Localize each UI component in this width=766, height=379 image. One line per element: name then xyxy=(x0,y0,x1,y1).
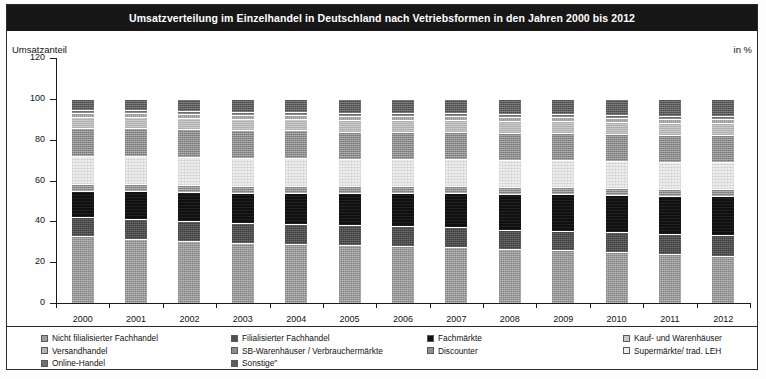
bar-segment xyxy=(339,117,361,120)
bar-segment xyxy=(392,121,414,131)
bar-segment xyxy=(178,158,200,185)
bar-segment xyxy=(552,115,574,117)
bar-segment xyxy=(552,134,574,161)
legend-item[interactable]: Discounter xyxy=(427,346,623,356)
bar-segment xyxy=(712,136,734,163)
legend-item[interactable]: Kauf- und Warenhäuser xyxy=(623,333,753,343)
legend-item[interactable]: SB-Warenhäuser / Verbrauchermärkte xyxy=(231,346,427,356)
bars-layer xyxy=(56,58,750,303)
bar-segment xyxy=(606,196,628,232)
bar-segment xyxy=(606,135,628,162)
bar-segment xyxy=(712,197,734,235)
page-title: Umsatzverteilung im Einzelhandel in Deut… xyxy=(129,12,635,24)
bar-segment xyxy=(445,248,467,303)
legend-column: Kauf- und WarenhäuserSupermärkte/ trad. … xyxy=(623,333,753,368)
bar-segment xyxy=(178,112,200,114)
bar-2012 xyxy=(712,58,734,303)
bar-segment xyxy=(499,118,521,121)
bar-segment xyxy=(499,195,521,230)
x-tick-label: 2004 xyxy=(286,314,306,324)
bar-segment xyxy=(339,121,361,131)
bar-segment xyxy=(392,160,414,186)
legend-columns: Nicht filialisierter FachhandelVersandha… xyxy=(41,333,753,368)
bar-segment xyxy=(125,192,147,220)
chart-title-bar: Umsatzverteilung im Einzelhandel in Deut… xyxy=(7,5,757,31)
legend-swatch-icon xyxy=(427,335,434,342)
legend-column: Filialisierter FachhandelSB-Warenhäuser … xyxy=(231,333,427,368)
legend-item-label: Versandhandel xyxy=(52,346,107,356)
bar-segment xyxy=(499,161,521,187)
bar-segment xyxy=(339,133,361,160)
legend-swatch-icon xyxy=(41,360,48,367)
bar-segment xyxy=(659,136,681,163)
bar-segment xyxy=(178,222,200,240)
bar-segment xyxy=(125,111,147,113)
x-tick xyxy=(56,303,57,308)
bar-segment xyxy=(606,189,628,195)
legend-item[interactable]: Supermärkte/ trad. LEH xyxy=(623,346,753,356)
x-tick-label: 2006 xyxy=(393,314,413,324)
bar-segment xyxy=(285,194,307,225)
x-tick xyxy=(483,303,484,308)
bar-segment xyxy=(499,100,521,114)
bar-segment xyxy=(232,159,254,186)
bar-2006 xyxy=(392,58,414,303)
bar-segment xyxy=(125,157,147,184)
bar-segment xyxy=(72,237,94,303)
legend-item[interactable]: Nicht filialisierter Fachhandel xyxy=(41,333,231,343)
bar-segment xyxy=(606,116,628,118)
bar-segment xyxy=(285,100,307,112)
bar-segment xyxy=(232,100,254,112)
legend-item[interactable]: Versandhandel xyxy=(41,346,231,356)
bar-segment xyxy=(499,250,521,303)
x-tick xyxy=(270,303,271,308)
legend-column: Nicht filialisierter FachhandelVersandha… xyxy=(41,333,231,368)
bar-segment xyxy=(339,100,361,113)
bar-segment xyxy=(232,194,254,224)
bar-segment xyxy=(606,162,628,188)
bar-segment xyxy=(552,161,574,187)
bar-segment xyxy=(552,232,574,250)
legend-item[interactable]: Filialisierter Fachhandel xyxy=(231,333,427,343)
bar-2010 xyxy=(606,58,628,303)
legend-item[interactable]: Sonstige" xyxy=(231,358,427,368)
legend-item-label: Supermärkte/ trad. LEH xyxy=(634,346,721,356)
legend-swatch-icon xyxy=(427,347,434,354)
bar-segment xyxy=(552,100,574,114)
bar-segment xyxy=(339,160,361,186)
bar-segment xyxy=(392,133,414,160)
bar-segment xyxy=(72,114,94,117)
x-tick xyxy=(536,303,537,308)
legend-item[interactable]: Online-Handel xyxy=(41,358,231,368)
bar-segment xyxy=(125,100,147,110)
legend-swatch-icon xyxy=(231,347,238,354)
legend-item-label: Kauf- und Warenhäuser xyxy=(634,333,722,343)
bar-segment xyxy=(606,123,628,133)
bar-segment xyxy=(392,100,414,113)
bar-segment xyxy=(499,188,521,194)
bar-segment xyxy=(712,124,734,134)
bar-segment xyxy=(712,190,734,196)
bar-segment xyxy=(285,187,307,193)
bar-segment xyxy=(125,114,147,117)
bar-segment xyxy=(125,118,147,128)
bar-segment xyxy=(659,235,681,254)
bar-segment xyxy=(232,116,254,119)
x-tick xyxy=(109,303,110,308)
bar-segment xyxy=(552,188,574,194)
bar-segment xyxy=(125,185,147,191)
bar-segment xyxy=(178,119,200,129)
bar-segment xyxy=(285,113,307,115)
bar-segment xyxy=(712,117,734,119)
bar-segment xyxy=(712,120,734,123)
legend-item[interactable]: Fachmärkte xyxy=(427,333,623,343)
bar-segment xyxy=(445,117,467,120)
bar-2007 xyxy=(445,58,467,303)
x-tick xyxy=(216,303,217,308)
bar-segment xyxy=(392,194,414,227)
bar-segment xyxy=(606,119,628,122)
bar-2008 xyxy=(499,58,521,303)
bar-segment xyxy=(178,193,200,222)
bar-segment xyxy=(499,115,521,117)
x-tick xyxy=(643,303,644,308)
